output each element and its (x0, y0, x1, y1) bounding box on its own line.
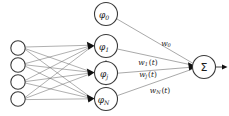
edge-input3-phi1 (25, 46, 92, 97)
weight-label-j: wj(t) (139, 70, 157, 81)
node-phi-1[interactable]: φ1 (95, 35, 118, 58)
weight-label-N: wN(t) (150, 86, 171, 96)
input-node-3[interactable] (11, 92, 25, 106)
weight-label-1: w1(t) (138, 58, 157, 68)
node-phi-N[interactable]: φN (95, 88, 118, 111)
weight-label-0: w0 (161, 39, 171, 49)
rbf-network-diagram: φ0 φ1 φj φN Σ w0 (0, 0, 229, 116)
node-phi-0[interactable]: φ0 (95, 3, 118, 26)
input-layer (11, 41, 25, 106)
arrowhead-phi1 (87, 42, 95, 50)
input-to-hidden-edges (25, 45, 92, 99)
node-phi-j[interactable]: φj (95, 62, 118, 85)
output-arrowhead (222, 64, 228, 69)
summation-node[interactable]: Σ (193, 56, 216, 79)
input-node-2[interactable] (11, 75, 25, 89)
arrowhead-phiN (87, 95, 95, 103)
output-arrow (216, 64, 228, 69)
edge-input1-phi1 (25, 46, 92, 64)
input-node-0[interactable] (11, 41, 25, 55)
basis-function-layer: φ0 φ1 φj φN (95, 3, 118, 111)
input-node-1[interactable] (11, 58, 25, 72)
edge-input2-phi1 (25, 46, 92, 80)
network-canvas: φ0 φ1 φj φN Σ w0 (0, 0, 229, 116)
hidden-input-arrowheads (87, 42, 95, 103)
edge-input3-phiN (25, 99, 92, 100)
arrowhead-phij (87, 69, 95, 77)
summation-label: Σ (201, 61, 208, 74)
edge-input0-phi1 (25, 45, 92, 47)
